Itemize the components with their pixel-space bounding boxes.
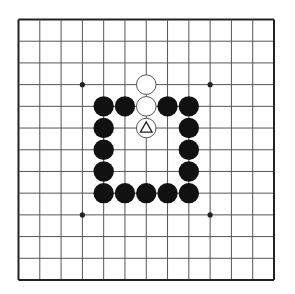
- black-stone[interactable]: [157, 96, 177, 116]
- star-point: [208, 82, 213, 87]
- black-stone-shape: [93, 140, 113, 160]
- black-stone[interactable]: [93, 161, 113, 181]
- black-stone-shape: [157, 183, 177, 203]
- white-stone[interactable]: [136, 75, 156, 95]
- black-stone-shape: [179, 96, 199, 116]
- black-stone[interactable]: [115, 96, 135, 116]
- black-stone[interactable]: [93, 140, 113, 160]
- star-point: [80, 212, 85, 217]
- black-stone-shape: [93, 96, 113, 116]
- white-stone-shape: [136, 97, 156, 117]
- black-stone-shape: [136, 183, 156, 203]
- black-stone[interactable]: [93, 183, 113, 203]
- white-stone[interactable]: [136, 97, 156, 117]
- black-stone[interactable]: [93, 96, 113, 116]
- white-stone[interactable]: [136, 118, 156, 138]
- black-stone[interactable]: [179, 161, 199, 181]
- black-stone[interactable]: [179, 96, 199, 116]
- black-stone[interactable]: [157, 183, 177, 203]
- black-stone-shape: [179, 118, 199, 138]
- black-stone-shape: [115, 183, 135, 203]
- black-stone-shape: [115, 96, 135, 116]
- star-point: [208, 212, 213, 217]
- black-stone[interactable]: [179, 183, 199, 203]
- black-stone-shape: [93, 161, 113, 181]
- board-grid: [19, 20, 275, 281]
- black-stone[interactable]: [93, 118, 113, 138]
- black-stone-shape: [93, 183, 113, 203]
- black-stone-shape: [179, 140, 199, 160]
- black-stone-shape: [93, 118, 113, 138]
- go-board[interactable]: [0, 0, 295, 294]
- black-stone[interactable]: [136, 183, 156, 203]
- star-point: [80, 82, 85, 87]
- black-stone-shape: [157, 96, 177, 116]
- black-stone[interactable]: [179, 118, 199, 138]
- black-stone[interactable]: [179, 140, 199, 160]
- black-stone-shape: [179, 183, 199, 203]
- black-stone-shape: [179, 161, 199, 181]
- white-stone-shape: [136, 75, 156, 95]
- black-stone[interactable]: [115, 183, 135, 203]
